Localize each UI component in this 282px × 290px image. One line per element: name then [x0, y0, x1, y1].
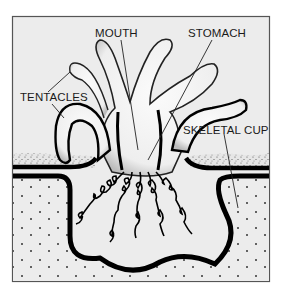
- label-tentacles: TENTACLES: [20, 91, 88, 103]
- label-mouth: MOUTH: [95, 27, 138, 39]
- coral-polyp-diagram: MOUTH STOMACH TENTACLES SKELETAL CUP: [0, 0, 282, 290]
- label-skeletal-cup: SKELETAL CUP: [183, 124, 269, 136]
- label-stomach: STOMACH: [188, 27, 246, 39]
